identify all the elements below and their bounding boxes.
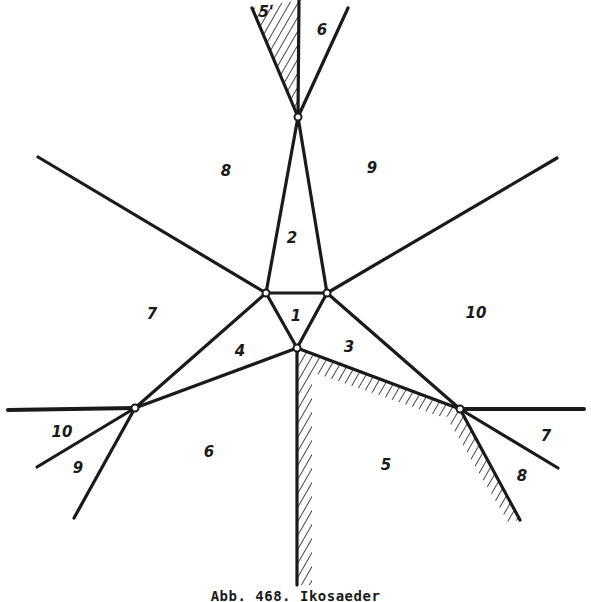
face-label-face-10-right: 10 (466, 306, 487, 321)
edge (135, 348, 297, 408)
hatched-region-5-left (297, 348, 312, 585)
face-label-face-10-left: 10 (52, 425, 73, 440)
face-label-face-6: 6 (204, 445, 214, 460)
edge (38, 157, 266, 293)
face-label-face-7-right: 7 (541, 429, 551, 444)
edge (8, 408, 135, 410)
icosahedron-diagram (0, 0, 591, 602)
vertex-dot (457, 406, 464, 413)
hatched-region-5-right (448, 409, 520, 522)
edge (297, 293, 327, 348)
edge (298, 117, 327, 293)
face-label-face-2: 2 (287, 231, 297, 246)
face-label-face-6-top: 6 (317, 23, 327, 38)
face-label-face-9-top: 9 (367, 161, 377, 176)
edge (266, 117, 298, 293)
face-label-face-7-left: 7 (147, 307, 157, 322)
face-label-face-1: 1 (291, 309, 301, 324)
vertex-dot (132, 405, 139, 412)
figure-caption: Abb. 468. Ikosaeder (0, 588, 591, 602)
face-label-face-5: 5 (381, 458, 391, 473)
vertex-dot (295, 114, 302, 121)
face-label-face-4: 4 (235, 344, 245, 359)
face-label-face-3: 3 (344, 340, 354, 355)
vertex-dot (324, 290, 331, 297)
face-label-face-5-prime: 5' (258, 5, 273, 20)
edge (327, 158, 557, 293)
face-label-face-8-right: 8 (517, 469, 527, 484)
face-label-face-9-left: 9 (73, 461, 83, 476)
icosahedron-net-figure: 123455'667788991010 Abb. 468. Ikosaeder (0, 0, 591, 602)
vertex-dot (263, 290, 270, 297)
vertex-dot (294, 345, 301, 352)
edge (297, 348, 460, 409)
edge (298, 0, 299, 117)
face-label-face-8-top: 8 (221, 164, 231, 179)
